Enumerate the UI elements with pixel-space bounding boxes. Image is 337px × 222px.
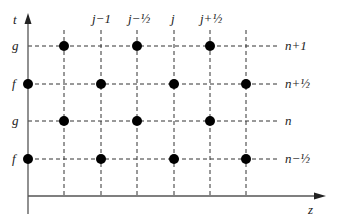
grid-point	[23, 154, 33, 164]
horizontal-gridlines	[28, 46, 280, 159]
grid-point	[241, 79, 251, 89]
column-label-j-plus-half: j+½	[200, 12, 222, 25]
grid-point	[169, 79, 179, 89]
row-right-label-n-plus-half: n+½	[285, 77, 310, 90]
row-left-label-g-bottom: g	[12, 114, 19, 127]
column-label-j-minus-1: j−1	[92, 12, 111, 25]
column-label-j: j	[171, 12, 175, 25]
row-left-label-f-bottom: f	[12, 152, 16, 165]
vertical-gridlines	[64, 30, 246, 196]
column-label-j-minus-half: j−½	[128, 12, 150, 25]
grid-point	[96, 79, 106, 89]
z-axis-arrow-icon	[314, 193, 326, 200]
row-left-label-f-top: f	[12, 77, 16, 90]
row-right-label-n: n	[285, 114, 292, 127]
grid-point	[205, 41, 215, 51]
z-axis-label: z	[308, 203, 313, 216]
row-right-label-n-minus-half: n−½	[285, 152, 310, 165]
grid-point	[132, 116, 142, 126]
grid-point	[59, 116, 69, 126]
t-axis-label: t	[13, 13, 17, 26]
grid-point	[205, 116, 215, 126]
t-axis-arrow-icon	[25, 13, 32, 24]
row-left-label-g-top: g	[12, 39, 19, 52]
grid-point	[23, 79, 33, 89]
grid-canvas	[0, 0, 337, 222]
grid-point	[169, 154, 179, 164]
grid-point	[241, 154, 251, 164]
grid-point	[132, 41, 142, 51]
grid-point	[59, 41, 69, 51]
axes	[25, 13, 327, 214]
staggered-grid-diagram: t z j−1 j−½ j j+½ g f g f n+1 n+½ n n−½	[0, 0, 337, 222]
row-right-label-n-plus-1: n+1	[285, 39, 307, 52]
grid-point	[96, 154, 106, 164]
